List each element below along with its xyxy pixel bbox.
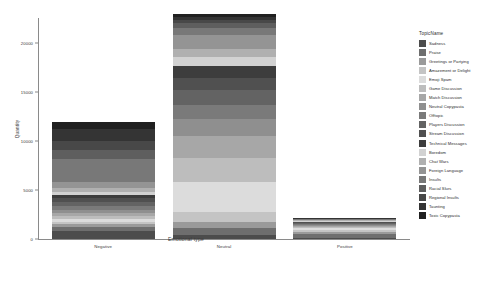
- bar-segment[interactable]: [173, 57, 276, 66]
- legend-item-label: Amazement or Delight: [429, 68, 471, 73]
- y-tick-mark: [35, 189, 38, 190]
- legend-item[interactable]: Offtopic: [419, 111, 485, 120]
- legend: TopicName SadnessPraiseGreetings or Part…: [419, 31, 485, 220]
- legend-swatch-icon: [419, 94, 426, 101]
- y-tick-mark: [35, 140, 38, 141]
- bar-segment[interactable]: [173, 182, 276, 212]
- legend-swatch-icon: [419, 176, 426, 183]
- bar-stack[interactable]: [173, 14, 276, 239]
- legend-item[interactable]: Sadness: [419, 39, 485, 48]
- legend-item-label: Praise: [429, 50, 441, 55]
- legend-swatch-icon: [419, 212, 426, 219]
- legend-swatch-icon: [419, 121, 426, 128]
- bar-segment[interactable]: [173, 119, 276, 136]
- legend-swatch-icon: [419, 49, 426, 56]
- bar-segment[interactable]: [173, 28, 276, 36]
- legend-swatch-icon: [419, 149, 426, 156]
- legend-item[interactable]: Boredom: [419, 148, 485, 157]
- legend-swatch-icon: [419, 58, 426, 65]
- bar-segment[interactable]: [173, 35, 276, 49]
- legend-item-label: Boredom: [429, 150, 446, 155]
- bar-segment[interactable]: [52, 129, 155, 141]
- bar-segment[interactable]: [52, 150, 155, 160]
- legend-item-label: Stream Discussion: [429, 131, 464, 136]
- bar-segment[interactable]: [52, 122, 155, 129]
- legend-item-label: Foreign Language: [429, 168, 463, 173]
- legend-swatch-icon: [419, 158, 426, 165]
- legend-item-label: Match Discussion: [429, 95, 462, 100]
- bar-segment[interactable]: [173, 158, 276, 182]
- x-axis-title: Emotional type: [0, 236, 372, 242]
- legend-item-label: Toxic Copypasta: [429, 213, 460, 218]
- legend-item[interactable]: Regional Insults: [419, 193, 485, 202]
- legend-swatch-icon: [419, 103, 426, 110]
- bar-segment[interactable]: [173, 66, 276, 77]
- plot-area: Quantity 05000100001500020000 NegativeNe…: [38, 18, 410, 240]
- legend-item[interactable]: Racial Slurs: [419, 184, 485, 193]
- legend-swatch-icon: [419, 112, 426, 119]
- legend-item-label: Greetings or Partying: [429, 59, 469, 64]
- y-tick-mark: [35, 42, 38, 43]
- legend-item-label: Game Discussion: [429, 86, 462, 91]
- legend-item-label: Taunting: [429, 204, 445, 209]
- bar-segment[interactable]: [173, 105, 276, 120]
- legend-swatch-icon: [419, 185, 426, 192]
- legend-entries: SadnessPraiseGreetings or PartyingAmazem…: [419, 39, 485, 221]
- bar-segment[interactable]: [173, 212, 276, 222]
- legend-item[interactable]: Greetings or Partying: [419, 57, 485, 66]
- legend-item-label: Neutral Copypasta: [429, 104, 464, 109]
- y-tick-mark: [35, 91, 38, 92]
- legend-swatch-icon: [419, 130, 426, 137]
- legend-item-label: Sadness: [429, 41, 445, 46]
- legend-item-label: Offtopic: [429, 113, 443, 118]
- bar-segment[interactable]: [52, 141, 155, 149]
- bar-segment[interactable]: [173, 49, 276, 57]
- legend-swatch-icon: [419, 167, 426, 174]
- bar-segment[interactable]: [173, 90, 276, 104]
- legend-item[interactable]: Emoji Spam: [419, 75, 485, 84]
- legend-swatch-icon: [419, 40, 426, 47]
- chart-container: Quantity 05000100001500020000 NegativeNe…: [0, 0, 489, 284]
- legend-item-label: Racial Slurs: [429, 186, 451, 191]
- bar-stack[interactable]: [52, 122, 155, 239]
- y-axis-line: [38, 18, 39, 240]
- legend-item[interactable]: Technical Messages: [419, 139, 485, 148]
- legend-item-label: Regional Insults: [429, 195, 459, 200]
- x-tick-label: Neutral: [217, 244, 232, 249]
- x-tick-label: Positive: [337, 244, 353, 249]
- legend-item[interactable]: Players Discussion: [419, 120, 485, 129]
- legend-item-label: Players Discussion: [429, 122, 464, 127]
- legend-item-label: Chat Wars: [429, 159, 449, 164]
- legend-swatch-icon: [419, 203, 426, 210]
- legend-item[interactable]: Game Discussion: [419, 84, 485, 93]
- legend-item[interactable]: Taunting: [419, 202, 485, 211]
- legend-item[interactable]: Insults: [419, 175, 485, 184]
- legend-item[interactable]: Amazement or Delight: [419, 66, 485, 75]
- legend-title: TopicName: [419, 31, 485, 36]
- legend-swatch-icon: [419, 67, 426, 74]
- bar-segment[interactable]: [173, 136, 276, 157]
- legend-swatch-icon: [419, 85, 426, 92]
- legend-item[interactable]: Chat Wars: [419, 157, 485, 166]
- bar-segment[interactable]: [173, 228, 276, 235]
- legend-swatch-icon: [419, 140, 426, 147]
- legend-item[interactable]: Stream Discussion: [419, 129, 485, 138]
- legend-item-label: Emoji Spam: [429, 77, 452, 82]
- legend-item-label: Technical Messages: [429, 141, 467, 146]
- legend-item[interactable]: Toxic Copypasta: [419, 211, 485, 220]
- legend-item[interactable]: Match Discussion: [419, 93, 485, 102]
- bar-segment[interactable]: [52, 159, 155, 182]
- x-tick-label: Negative: [94, 244, 112, 249]
- legend-swatch-icon: [419, 76, 426, 83]
- legend-item[interactable]: Neutral Copypasta: [419, 102, 485, 111]
- legend-swatch-icon: [419, 194, 426, 201]
- y-axis-title: Quantity: [15, 120, 20, 139]
- legend-item[interactable]: Foreign Language: [419, 166, 485, 175]
- legend-item[interactable]: Praise: [419, 48, 485, 57]
- legend-item-label: Insults: [429, 177, 441, 182]
- bar-segment[interactable]: [173, 78, 276, 91]
